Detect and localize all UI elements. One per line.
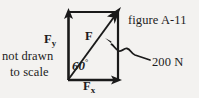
- figure-a-11-diagram: not drawn to scale figure A-11 200 N F F…: [0, 0, 199, 98]
- fx-label-subscript: x: [91, 85, 96, 95]
- figure-number-label: figure A-11: [128, 14, 187, 27]
- force-magnitude-label: 200 N: [152, 56, 183, 69]
- fy-label-subscript: y: [52, 38, 57, 48]
- not-drawn-to-scale-note-line1: not drawn: [2, 50, 53, 63]
- fx-component-label: Fx: [83, 80, 95, 93]
- fy-component-label: Fy: [44, 33, 56, 46]
- resultant-vector-label: F: [85, 30, 93, 43]
- angle-label: 60°: [72, 59, 88, 72]
- angle-value: 60: [72, 58, 85, 73]
- not-drawn-to-scale-note-line2: to scale: [10, 66, 49, 79]
- degree-symbol: °: [85, 58, 88, 67]
- fx-label-base: F: [83, 79, 91, 93]
- fy-label-base: F: [44, 32, 52, 46]
